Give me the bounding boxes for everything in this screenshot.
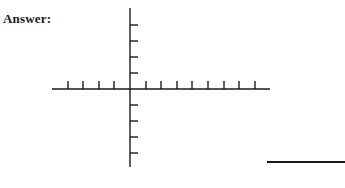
coordinate-axes [0, 0, 345, 188]
answer-blank-line[interactable] [267, 161, 345, 163]
x-axis-ticks [68, 81, 255, 89]
